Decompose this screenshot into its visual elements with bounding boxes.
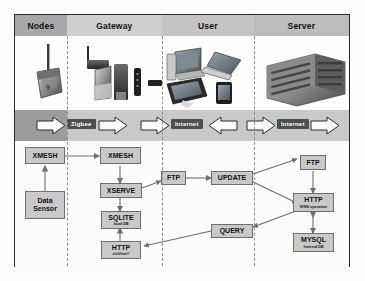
flow-box-label: XMESH <box>108 152 133 159</box>
flow-box-label: XMESH <box>33 152 58 159</box>
flow-box-label: QUERY <box>220 227 245 234</box>
architecture-figure: Nodes Gateway User Server <box>0 0 365 281</box>
column-header-nodes: Nodes <box>15 15 67 36</box>
device-photo-band: 9 <box>15 36 349 110</box>
flow-box-label: Data <box>37 197 52 205</box>
column-header-band: Nodes Gateway User Server <box>15 15 349 36</box>
flow-box-sublabel: eloView® <box>113 252 130 256</box>
internet-chip-user: Internet <box>171 119 203 129</box>
edge-update-to-ftp-server <box>253 159 297 174</box>
flow-box-sqlite: SQLITE local DB <box>101 211 141 229</box>
flow-box-update: UPDATE <box>211 171 253 185</box>
column-header-gateway: Gateway <box>67 15 162 36</box>
flow-box-xmesh-node: XMESH <box>25 147 65 164</box>
column-header-user: User <box>162 15 254 36</box>
edge-query-to-http-gateway <box>144 231 211 246</box>
flow-box-sublabel: Internal DB <box>303 245 323 249</box>
flow-box-ftp-gateway: FTP <box>161 171 186 185</box>
flow-box-label: FTP <box>306 159 319 166</box>
flow-box-http-server: HTTP WSN operation <box>293 193 334 212</box>
flow-box-label: UPDATE <box>218 174 246 181</box>
wireless-sensor-mote-icon: 9 <box>37 44 62 98</box>
flow-box-mysql: MYSQL Internal DB <box>293 233 334 252</box>
server-rack-icon <box>267 54 345 106</box>
flow-box-label: HTTP <box>112 244 130 251</box>
flow-box-ftp-server: FTP <box>300 155 326 170</box>
column-separator-nodes-gateway <box>67 36 68 266</box>
flow-box-label: HTTP <box>304 196 322 203</box>
data-flow-area: XMESH Data Sensor XMESH XSERVE SQLITE lo… <box>15 141 349 267</box>
flow-box-label: XSERVE <box>107 187 135 194</box>
protocol-band: Zigbee Internet Internet <box>15 110 349 141</box>
desktop-computer-icon <box>167 48 205 80</box>
flow-box-label2: Sensor <box>33 205 57 213</box>
tablet-device-icon <box>167 78 207 107</box>
gateway-box-icon <box>95 66 111 100</box>
column-header-server: Server <box>254 15 349 36</box>
edge-update-to-http-server <box>253 182 297 203</box>
device-illustrations: 9 <box>15 36 351 110</box>
laptop-computer-icon <box>201 52 241 80</box>
flow-box-http-gateway: HTTP eloView® <box>101 241 141 259</box>
svg-text:9: 9 <box>46 84 50 92</box>
edge-xserve-to-ftp <box>142 181 161 188</box>
flow-box-label: MYSQL <box>301 236 326 243</box>
router-tower-icon <box>114 64 128 100</box>
flow-box-xmesh-gateway: XMESH <box>100 147 141 164</box>
zigbee-chip: Zigbee <box>67 119 96 129</box>
flow-box-xserve: XSERVE <box>100 183 142 198</box>
flow-box-label: FTP <box>167 174 180 181</box>
smartphone-device-icon <box>216 82 232 104</box>
flow-box-sublabel: WSN operation <box>300 205 327 209</box>
flow-box-label: SQLITE <box>108 214 133 221</box>
protocol-chip-row: Zigbee Internet Internet <box>15 110 349 141</box>
usb-stick-icon <box>134 68 141 96</box>
edge-http-to-query <box>253 211 296 227</box>
column-separator-gateway-user <box>162 36 163 266</box>
internet-chip-server: Internet <box>277 119 309 129</box>
flow-box-data-sensor: Data Sensor <box>25 191 65 219</box>
antenna-gateway-icon <box>87 46 109 69</box>
connector-bar-icon <box>148 80 162 86</box>
flow-box-sublabel: local DB <box>113 222 128 226</box>
column-separator-user-server <box>254 36 255 266</box>
flow-box-query: QUERY <box>211 224 253 238</box>
diagram-frame: Nodes Gateway User Server <box>14 14 350 267</box>
